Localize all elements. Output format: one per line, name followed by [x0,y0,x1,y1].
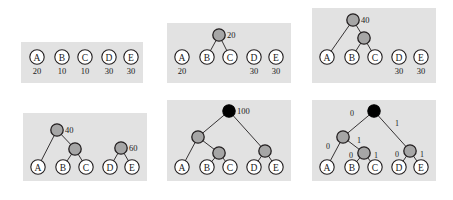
leaf-label: D [106,53,113,63]
panel-step-3: 40ABCD30E30 [312,8,436,83]
leaf-label: E [418,53,424,63]
internal-node-merge [358,32,370,44]
edge-bit-label: 1 [357,136,361,145]
leaf-label: B [349,163,355,173]
leaf-label: A [35,163,42,173]
leaf-label: C [82,53,88,63]
internal-node-merge [404,145,416,157]
internal-node-merge [347,14,359,26]
leaf-label: E [129,163,135,173]
internal-node-value: 100 [237,106,250,116]
leaf-label: B [204,163,210,173]
leaf-weight: 20 [178,66,187,76]
internal-node-merge [213,147,225,159]
leaf-weight: 30 [105,66,114,76]
leaf-label: D [396,53,403,63]
internal-node-merge [192,131,204,143]
leaf-label: A [324,163,331,173]
tree-edge [374,111,410,151]
internal-node-value: 20 [227,30,236,40]
edge-bit-label: 1 [395,119,399,128]
tree-graphic-step-3: 40ABCD30E30 [312,8,436,83]
leaf-weight: 30 [395,66,404,76]
leaf-label: A [179,53,186,63]
leaf-label: C [372,53,378,63]
internal-node-merge [51,124,63,136]
leaf-label: E [418,163,424,173]
edge-bit-label: 1 [420,150,424,159]
leaf-weight: 30 [127,66,136,76]
edge-bit-label: 0 [349,151,353,160]
leaf-label: D [107,163,114,173]
internal-node-merge [259,145,271,157]
panel-step-2: 20A20BCD30E30 [167,23,291,83]
leaf-label: B [60,163,66,173]
leaf-label: E [273,163,279,173]
tree-graphic-step-4: 4060ABCDE [23,113,147,181]
internal-node-value: 60 [129,143,138,153]
panel-step-1: A20B10C10D30E30 [21,42,143,83]
tree-graphic-step-6: ABCDE01010101 [312,100,436,181]
leaf-label: E [273,53,279,63]
internal-node-merge [115,142,127,154]
edge-bit-label: 0 [395,150,399,159]
internal-node-merge [69,143,81,155]
edge-bit-label: 0 [326,142,330,151]
leaf-weight: 20 [33,66,42,76]
tree-edge [229,111,265,151]
leaf-label: B [59,53,65,63]
internal-node-root [368,105,380,117]
leaf-label: A [179,163,186,173]
leaf-label: C [372,163,378,173]
internal-node-value: 40 [65,125,74,135]
tree-graphic-step-5: 100ABCDE [167,100,291,181]
panel-step-6: ABCDE01010101 [312,100,436,181]
leaf-weight: 10 [81,66,90,76]
leaf-weight: 30 [250,66,259,76]
leaf-weight: 30 [417,66,426,76]
leaf-label: D [251,53,258,63]
leaf-label: E [128,53,134,63]
leaf-label: C [83,163,89,173]
internal-node-root [223,105,235,117]
panel-step-5: 100ABCDE [167,100,291,181]
internal-node-value: 40 [361,15,370,25]
tree-graphic-step-2: 20A20BCD30E30 [167,23,291,83]
leaf-label: A [324,53,331,63]
panel-step-4: 4060ABCDE [23,113,147,181]
tree-graphic-step-1: A20B10C10D30E30 [21,42,143,83]
edge-bit-label: 0 [350,109,354,118]
leaf-label: C [227,163,233,173]
figure-canvas: A20B10C10D30E3020A20BCD30E3040ABCD30E304… [0,0,453,200]
leaf-weight: 10 [58,66,67,76]
leaf-label: B [204,53,210,63]
leaf-weight: 30 [272,66,281,76]
leaf-label: B [349,53,355,63]
internal-node-merge [337,131,349,143]
edge-bit-label: 1 [374,151,378,160]
internal-node-merge [358,147,370,159]
leaf-label: D [396,163,403,173]
leaf-label: D [251,163,258,173]
leaf-label: A [34,53,41,63]
internal-node-merge [213,29,225,41]
leaf-label: C [227,53,233,63]
